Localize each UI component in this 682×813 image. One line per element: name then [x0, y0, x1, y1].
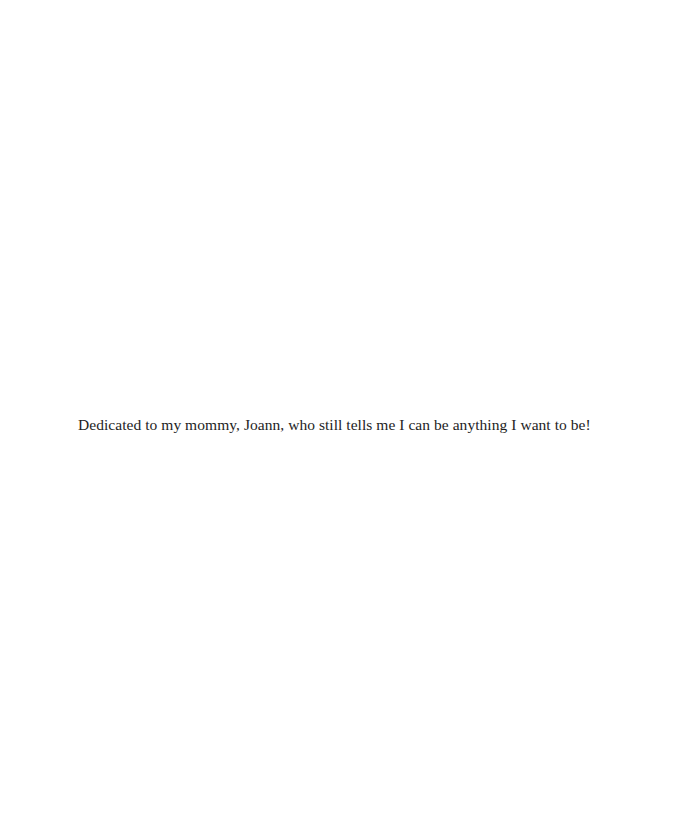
document-page: Dedicated to my mommy, Joann, who still …	[0, 0, 682, 813]
dedication-text: Dedicated to my mommy, Joann, who still …	[78, 415, 591, 435]
